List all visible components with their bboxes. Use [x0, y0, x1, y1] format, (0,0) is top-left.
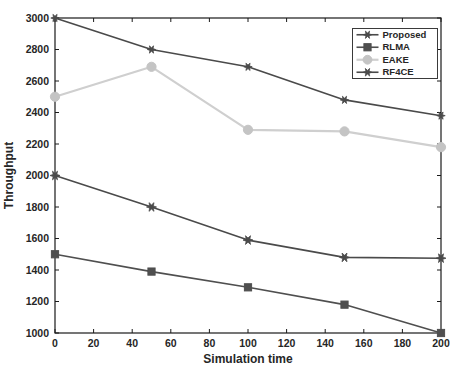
marker-circle — [147, 62, 156, 71]
x-tick-label: 120 — [278, 337, 296, 349]
y-tick-label: 2200 — [26, 138, 50, 150]
marker-square — [148, 268, 155, 275]
x-tick-label: 40 — [126, 337, 138, 349]
y-tick-label: 2400 — [26, 106, 50, 118]
y-axis-label: Throughput — [2, 142, 16, 209]
legend-label-rf4ce: RF4CE — [383, 66, 414, 77]
marker-circle — [50, 92, 59, 101]
x-tick-label: 140 — [316, 337, 334, 349]
x-tick-label: 20 — [88, 337, 100, 349]
x-tick-label: 80 — [204, 337, 216, 349]
legend-label-eake: EAKE — [383, 54, 409, 65]
y-tick-label: 1400 — [26, 264, 50, 276]
x-tick-label: 160 — [355, 337, 373, 349]
y-tick-label: 1200 — [26, 295, 50, 307]
marker-square — [364, 44, 371, 51]
y-tick-label: 2800 — [26, 43, 50, 55]
marker-square — [51, 251, 58, 258]
marker-circle — [243, 125, 252, 134]
legend-label-rlma: RLMA — [383, 41, 411, 52]
legend: ProposedRLMAEAKERF4CE — [353, 29, 438, 79]
y-tick-label: 2600 — [26, 75, 50, 87]
marker-square — [341, 301, 348, 308]
throughput-line-chart: 0204060801001201401601802001000120014001… — [0, 0, 457, 383]
marker-square — [244, 284, 251, 291]
marker-circle — [436, 143, 445, 152]
x-axis-label: Simulation time — [203, 352, 293, 366]
x-tick-label: 180 — [394, 337, 412, 349]
y-tick-label: 1600 — [26, 232, 50, 244]
legend-item-rf4ce: RF4CE — [357, 66, 414, 77]
y-tick-label: 1000 — [26, 327, 50, 339]
chart-figure: 0204060801001201401601802001000120014001… — [0, 0, 457, 383]
x-tick-label: 100 — [239, 337, 257, 349]
marker-circle — [340, 127, 349, 136]
y-tick-label: 1800 — [26, 201, 50, 213]
x-tick-label: 60 — [165, 337, 177, 349]
x-tick-label: 200 — [432, 337, 450, 349]
marker-square — [437, 329, 444, 336]
x-tick-label: 0 — [52, 337, 58, 349]
legend-label-proposed: Proposed — [383, 29, 427, 40]
marker-circle — [363, 55, 372, 64]
y-tick-label: 2000 — [26, 169, 50, 181]
y-tick-label: 3000 — [26, 12, 50, 24]
